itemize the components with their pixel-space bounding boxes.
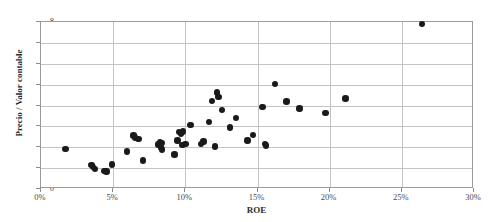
- gridline-vertical: [330, 22, 331, 187]
- data-point: [419, 21, 425, 27]
- x-axis-tick-label: 30%: [453, 193, 489, 202]
- chart-title: [0, 0, 489, 1]
- data-point: [140, 157, 146, 163]
- x-axis-tick-mark: [40, 188, 41, 192]
- data-point: [215, 94, 221, 100]
- gridline-vertical: [402, 22, 403, 187]
- data-point: [206, 119, 212, 125]
- x-axis-tick-label: 0%: [20, 193, 60, 202]
- data-point: [250, 132, 256, 138]
- data-point: [233, 115, 239, 121]
- x-axis-tick-label: 15%: [237, 193, 277, 202]
- data-point: [200, 138, 206, 144]
- gridline-horizontal: [41, 126, 472, 127]
- data-point: [124, 148, 130, 154]
- x-axis-tick-label: 5%: [92, 193, 132, 202]
- data-point: [182, 141, 188, 147]
- gridline-horizontal: [41, 85, 472, 86]
- gridline-vertical: [185, 22, 186, 187]
- x-axis-tick-mark: [473, 188, 474, 192]
- data-point: [322, 110, 328, 116]
- data-point: [227, 124, 233, 130]
- x-axis-title: ROE: [40, 205, 473, 215]
- plot-area: [40, 21, 473, 188]
- x-axis-tick-mark: [112, 188, 113, 192]
- gridline-horizontal: [41, 147, 472, 148]
- data-point: [159, 146, 165, 152]
- x-axis-tick-mark: [401, 188, 402, 192]
- x-axis-tick-mark: [184, 188, 185, 192]
- x-axis-tick-mark: [329, 188, 330, 192]
- data-point: [212, 143, 218, 149]
- gridline-vertical: [258, 22, 259, 187]
- data-point: [62, 146, 68, 152]
- data-point: [342, 95, 348, 101]
- x-axis-tick-label: 25%: [381, 193, 421, 202]
- x-axis-tick-mark: [257, 188, 258, 192]
- gridline-horizontal: [41, 106, 472, 107]
- scatter-chart: Precio / Valor contable ROE 012345678 0%…: [0, 0, 489, 222]
- data-point: [187, 122, 193, 128]
- y-axis-title: Precio / Valor contable: [14, 23, 24, 163]
- data-point: [283, 98, 289, 104]
- data-point: [135, 136, 141, 142]
- data-point: [209, 98, 215, 104]
- data-point: [219, 107, 225, 113]
- data-point: [272, 81, 278, 87]
- data-point: [109, 161, 115, 167]
- data-point: [296, 105, 302, 111]
- data-point: [244, 137, 250, 143]
- gridline-horizontal: [41, 43, 472, 44]
- data-point: [259, 104, 265, 110]
- x-axis-tick-label: 10%: [164, 193, 204, 202]
- gridline-horizontal: [41, 64, 472, 65]
- data-point: [103, 168, 109, 174]
- x-axis-tick-label: 20%: [309, 193, 349, 202]
- data-point: [171, 151, 177, 157]
- data-point: [92, 166, 98, 172]
